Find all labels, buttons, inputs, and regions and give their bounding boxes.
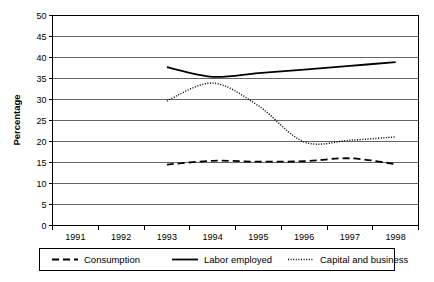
- chart-legend: ConsumptionLabor employedCapital and bus…: [40, 249, 409, 271]
- x-axis-tick-label: 1996: [294, 232, 314, 242]
- y-axis-tick-label: 15: [36, 158, 46, 168]
- data-series-group: [167, 62, 396, 164]
- chart-container: 05101520253035404550 1991199219931994199…: [0, 0, 434, 282]
- y-axis-tick-label: 0: [41, 221, 46, 231]
- x-axis-tick-label: 1995: [248, 232, 268, 242]
- series-line-consumption: [167, 158, 396, 164]
- y-axis-tick-label: 40: [36, 53, 46, 63]
- x-axis-tick-label: 1994: [203, 232, 223, 242]
- y-axis-tick-label: 5: [41, 200, 46, 210]
- series-line-labor-employed: [167, 62, 396, 77]
- y-axis-tick-label: 20: [36, 137, 46, 147]
- x-axis-tick-label: 1993: [157, 232, 177, 242]
- x-axis-tick-label: 1998: [386, 232, 406, 242]
- x-axis-tick-label: 1997: [340, 232, 360, 242]
- y-axis-tick-label: 10: [36, 179, 46, 189]
- x-axis-tick-label: 1991: [65, 232, 85, 242]
- x-axis-tick-labels: 19911992199319941995199619971998: [65, 232, 405, 242]
- y-axis-tick-label: 50: [36, 11, 46, 21]
- legend-label-capital-and-business: Capital and business: [320, 254, 408, 265]
- y-axis-tick-labels: 05101520253035404550: [36, 11, 46, 231]
- legend-label-consumption: Consumption: [84, 254, 140, 265]
- grid-lines: [53, 37, 419, 205]
- line-chart: 05101520253035404550 1991199219931994199…: [0, 0, 434, 282]
- x-axis-tick-label: 1992: [111, 232, 131, 242]
- y-axis-tick-label: 30: [36, 95, 46, 105]
- y-axis-tick-label: 45: [36, 32, 46, 42]
- legend-label-labor-employed: Labor employed: [204, 254, 272, 265]
- y-axis-tick-label: 25: [36, 116, 46, 126]
- y-axis-title: Percentage: [11, 94, 22, 145]
- series-line-capital-and-business: [167, 83, 396, 144]
- y-axis-tick-label: 35: [36, 74, 46, 84]
